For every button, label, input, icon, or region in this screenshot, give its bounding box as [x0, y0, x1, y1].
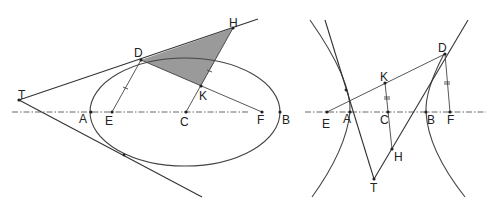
label-c-right: C — [380, 113, 389, 127]
hyperbola-left-branch — [310, 20, 350, 197]
label-t-right: T — [370, 181, 378, 195]
point-tangent-left-branch — [345, 89, 348, 92]
ellipse-figure: T D H K A E C F B — [12, 16, 290, 197]
label-k-right: K — [380, 70, 388, 84]
point-tangent-lower — [123, 154, 126, 157]
label-a-left: A — [79, 112, 87, 126]
label-e-left: E — [105, 114, 113, 128]
label-t-left: T — [18, 88, 26, 102]
tangent-at-d — [374, 20, 468, 179]
label-b-right: B — [427, 113, 435, 127]
label-h-left: H — [229, 16, 238, 30]
label-k-left: K — [199, 89, 207, 103]
label-e-right: E — [322, 117, 330, 131]
segment-df-right — [445, 54, 450, 112]
point-c-left — [184, 110, 187, 113]
point-a-left — [89, 110, 92, 113]
label-a-right: A — [343, 112, 351, 126]
label-h-right: H — [394, 150, 403, 164]
hyperbola-figure: D K E A C B F H T — [305, 20, 486, 197]
label-d-right: D — [438, 41, 447, 55]
shaded-triangle-dhk — [141, 28, 233, 86]
label-f-right: F — [447, 113, 454, 127]
point-k-left — [199, 84, 202, 87]
diagram-canvas: T D H K A E C F B — [0, 0, 494, 211]
segment-de — [112, 60, 141, 112]
tangent-left-branch — [325, 20, 374, 179]
point-e-right — [325, 110, 328, 113]
label-b-left: B — [282, 113, 290, 127]
label-c-left: C — [180, 115, 189, 129]
label-f-left: F — [257, 113, 264, 127]
label-d-left: D — [134, 46, 143, 60]
